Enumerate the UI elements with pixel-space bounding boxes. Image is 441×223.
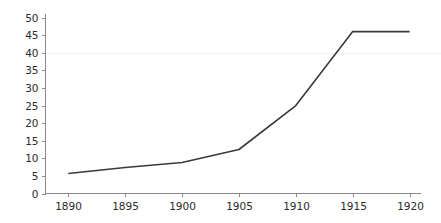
- y-tick-label-40: 40: [25, 47, 38, 59]
- x-tick-label-1920: 1920: [397, 200, 424, 212]
- chart-background: [0, 0, 441, 223]
- y-tick-label-35: 35: [25, 64, 38, 76]
- x-tick-label-1910: 1910: [283, 200, 310, 212]
- y-tick-label-0: 0: [32, 188, 39, 200]
- x-tick-label-1905: 1905: [226, 200, 253, 212]
- y-tick-label-5: 5: [32, 170, 39, 182]
- y-tick-label-20: 20: [25, 117, 38, 129]
- x-tick-label-1900: 1900: [169, 200, 196, 212]
- y-tick-label-45: 45: [25, 29, 38, 41]
- y-tick-label-10: 10: [25, 152, 38, 164]
- y-tick-label-15: 15: [25, 135, 38, 147]
- x-tick-label-1915: 1915: [340, 200, 367, 212]
- y-tick-label-50: 50: [25, 12, 38, 24]
- x-tick-label-1890: 1890: [55, 200, 82, 212]
- x-tick-label-1895: 1895: [112, 200, 139, 212]
- y-tick-label-30: 30: [25, 82, 38, 94]
- line-chart: 05101520253035404550 1890189519001905191…: [0, 0, 441, 223]
- y-tick-label-25: 25: [25, 100, 38, 112]
- chart-canvas: 05101520253035404550 1890189519001905191…: [0, 0, 441, 223]
